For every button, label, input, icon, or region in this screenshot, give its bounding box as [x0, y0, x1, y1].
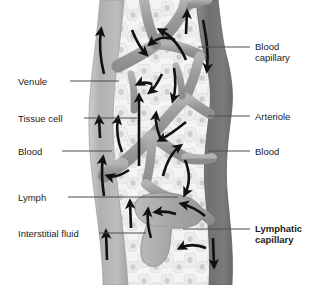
arrow-top-up: [186, 12, 187, 34]
arrow-venule-upper: [99, 118, 100, 138]
label-tissue-cell: Tissue cell: [18, 113, 63, 124]
arrow-lymph-left-up: [130, 202, 131, 228]
label-arteriole: Arteriole: [255, 111, 290, 122]
label-lymphatic-capillary: Lymphatic capillary: [255, 223, 302, 245]
label-blood-capillary: Blood capillary: [255, 41, 290, 63]
arrow-mid-left: [138, 83, 152, 85]
label-blood-right: Blood: [255, 146, 279, 157]
label-lymph: Lymph: [18, 192, 46, 203]
label-blood-left: Blood: [18, 146, 42, 157]
diagram-figure: Venule Tissue cell Blood Lymph Interstit…: [0, 0, 319, 285]
arrow-venule-lower: [106, 232, 107, 260]
label-venule: Venule: [18, 76, 47, 87]
arrow-arteriole-bottom: [213, 238, 214, 266]
label-interstitial-fluid: Interstitial fluid: [18, 228, 79, 239]
